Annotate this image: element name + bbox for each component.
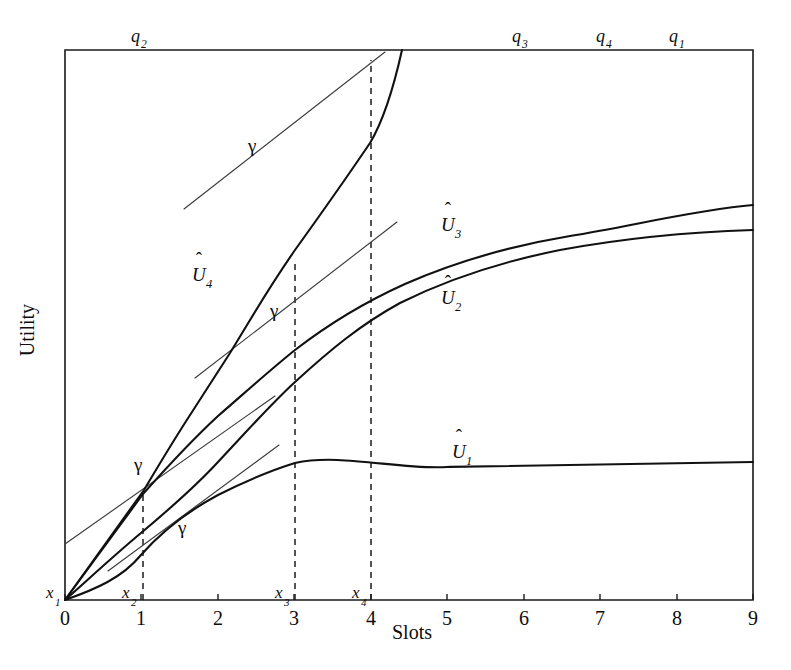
x-tick-label-2: 2 [213, 607, 223, 629]
x-axis-ticks [65, 594, 753, 600]
q-marker-3: q 3 [512, 26, 528, 50]
x-tick-label-4: 4 [366, 607, 376, 629]
gamma-tangent-2 [65, 396, 275, 544]
x-axis-title: Slots [392, 621, 432, 643]
x-marker-3-sub: 3 [283, 596, 290, 608]
x-tick-label-8: 8 [672, 607, 682, 629]
x-tick-label-0: 0 [60, 607, 70, 629]
x-marker-2-base: x [121, 583, 130, 602]
gamma-label-1: γ [177, 517, 186, 538]
x-marker-2-sub: 2 [131, 596, 137, 608]
x-marker-1-sub: 1 [55, 596, 61, 608]
curve-label-U1-sub: 1 [466, 454, 472, 468]
curve-U4hat [65, 50, 402, 600]
utility-slots-chart: 0 1 2 3 4 5 6 7 8 9 Slots Utility q 2 q … [0, 0, 791, 670]
gamma-label-3: γ [269, 300, 278, 321]
curve-label-U4-base: U [192, 264, 207, 285]
q-marker-2: q 2 [131, 26, 147, 50]
curve-label-U1: ˆ U 1 [452, 425, 472, 468]
gamma-tangent-lines [65, 52, 397, 571]
utility-curves [65, 50, 753, 600]
curve-label-U3-base: U [441, 214, 456, 235]
q-marker-3-base: q [512, 26, 521, 46]
curve-labels: ˆ U 4 ˆ U 3 ˆ U 2 ˆ U 1 [192, 198, 472, 468]
x-tick-label-9: 9 [748, 607, 758, 629]
q-marker-1: q 1 [669, 26, 685, 50]
curve-label-U3: ˆ U 3 [441, 198, 461, 241]
gamma-label-4: γ [247, 135, 256, 156]
curve-label-U2-base: U [441, 287, 456, 308]
x-marker-1: x 1 [45, 583, 61, 608]
curve-U1hat [65, 460, 753, 600]
q-markers: q 2 q 3 q 4 q 1 [131, 26, 685, 50]
x-marker-4-sub: 4 [361, 596, 367, 608]
x-marker-4-base: x [351, 583, 360, 602]
x-tick-label-5: 5 [442, 607, 452, 629]
x-marker-3: x 3 [274, 583, 290, 608]
q-marker-4: q 4 [596, 26, 612, 50]
q-marker-4-sub: 4 [606, 38, 612, 50]
x-markers: x 1 x 2 x 3 x 4 [45, 583, 367, 608]
gamma-tangent-4 [184, 52, 385, 209]
x-tick-label-7: 7 [595, 607, 605, 629]
x-marker-3-base: x [274, 583, 283, 602]
gamma-label-2: γ [133, 454, 142, 475]
curve-U3hat [65, 205, 753, 600]
q-marker-2-sub: 2 [141, 38, 147, 50]
x-marker-1-base: x [45, 583, 54, 602]
curve-U2hat [65, 230, 753, 600]
frame-border [65, 50, 753, 600]
q-marker-2-base: q [131, 26, 140, 46]
gamma-tangent-3 [195, 222, 397, 378]
x-marker-2: x 2 [121, 583, 137, 608]
q-marker-1-sub: 1 [679, 38, 685, 50]
x-tick-label-6: 6 [519, 607, 529, 629]
plot-frame [65, 50, 753, 600]
q-marker-3-sub: 3 [521, 38, 528, 50]
chart-figure: 0 1 2 3 4 5 6 7 8 9 Slots Utility q 2 q … [0, 0, 791, 670]
curve-label-U3-sub: 3 [454, 227, 461, 241]
y-axis-title: Utility [16, 304, 39, 356]
x-tick-label-1: 1 [136, 607, 146, 629]
x-tick-label-3: 3 [289, 607, 299, 629]
q-marker-4-base: q [596, 26, 605, 46]
curve-label-U4: ˆ U 4 [192, 248, 212, 291]
q-marker-1-base: q [669, 26, 678, 46]
curve-label-U4-sub: 4 [206, 277, 212, 291]
x-marker-4: x 4 [351, 583, 367, 608]
curve-label-U1-base: U [452, 441, 467, 462]
curve-label-U2-sub: 2 [455, 300, 461, 314]
